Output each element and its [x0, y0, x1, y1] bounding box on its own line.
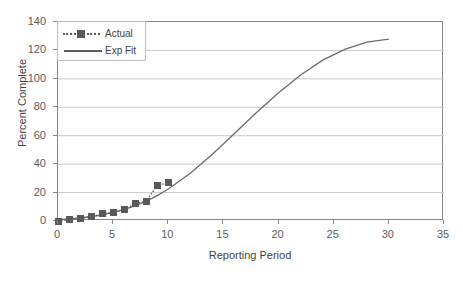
chart-container: 020406080100120140 Percent Complete 0510…: [0, 0, 463, 282]
x-tick-label: 35: [423, 228, 463, 240]
x-tick-mark: [388, 220, 389, 224]
x-tick-label: 10: [147, 228, 187, 240]
x-tick-mark: [222, 220, 223, 224]
data-point-marker: [121, 206, 128, 213]
y-tick-label: 20: [0, 186, 46, 198]
gridlines: [58, 50, 444, 192]
data-point-marker: [110, 209, 117, 216]
y-axis-title: Percent Complete: [16, 38, 28, 168]
data-point-marker: [154, 182, 161, 189]
x-tick-mark: [278, 220, 279, 224]
x-tick-label: 15: [202, 228, 242, 240]
data-point-marker: [77, 215, 84, 222]
legend-symbol-dotted-marker: [63, 28, 103, 40]
legend-item-exp-fit: Exp Fit: [63, 42, 140, 59]
x-axis-title: Reporting Period: [57, 249, 443, 261]
x-tick-mark: [57, 220, 58, 224]
chart-legend: Actual Exp Fit: [57, 21, 146, 61]
data-point-marker: [143, 198, 150, 205]
data-point-marker: [66, 216, 73, 223]
y-tick-label: 0: [0, 214, 46, 226]
x-tick-mark: [112, 220, 113, 224]
x-tick-mark: [167, 220, 168, 224]
x-tick-mark: [333, 220, 334, 224]
data-point-marker: [99, 210, 106, 217]
x-tick-label: 20: [258, 228, 298, 240]
y-tick-label: 140: [0, 15, 46, 27]
data-point-marker: [88, 213, 95, 220]
x-tick-label: 0: [37, 228, 77, 240]
x-tick-label: 5: [92, 228, 132, 240]
legend-symbol-solid-line: [63, 45, 103, 57]
legend-square-marker-icon: [77, 30, 85, 38]
x-tick-label: 30: [368, 228, 408, 240]
data-point-marker: [165, 179, 172, 186]
legend-item-actual: Actual: [63, 25, 140, 42]
legend-label-actual: Actual: [103, 28, 133, 39]
data-point-marker: [132, 200, 139, 207]
data-point-marker: [55, 218, 62, 225]
legend-label-exp-fit: Exp Fit: [103, 45, 136, 56]
x-tick-mark: [443, 220, 444, 224]
x-tick-label: 25: [313, 228, 353, 240]
